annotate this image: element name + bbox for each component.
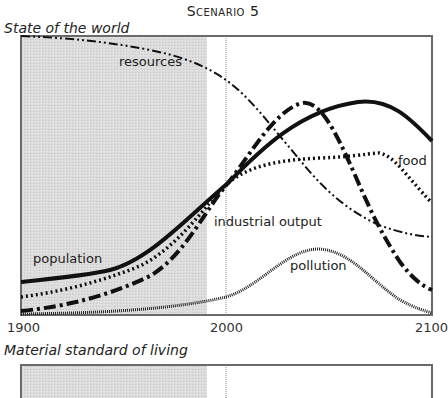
label-pollution: pollution	[290, 258, 347, 273]
panel-title-material-standard: Material standard of living	[4, 342, 188, 358]
living-standard-shaded-region	[21, 365, 207, 398]
label-industrial-output: industrial output	[214, 214, 322, 229]
label-population: population	[33, 251, 102, 266]
label-food: food	[398, 153, 427, 168]
x-tick-1900: 1900	[7, 320, 40, 335]
historical-shaded-region	[21, 36, 207, 315]
x-tick-2000: 2000	[210, 320, 243, 335]
x-tick-2100: 2100	[415, 320, 448, 335]
label-resources: resources	[119, 54, 182, 69]
